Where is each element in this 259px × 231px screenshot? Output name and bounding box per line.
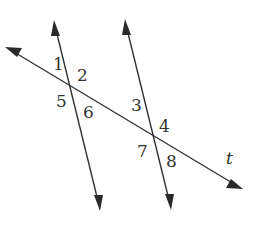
angle-label-4: 4 (159, 118, 170, 135)
arrowhead-up-icon (51, 20, 60, 36)
angle-label-3: 3 (131, 97, 142, 114)
arrowhead-up-icon (122, 19, 131, 35)
angle-label-2: 2 (77, 67, 88, 84)
angle-label-5: 5 (56, 93, 67, 110)
diagram-canvas (0, 0, 259, 231)
transversal-line (14, 52, 234, 184)
angle-label-8: 8 (166, 153, 177, 170)
angle-label-6: 6 (83, 104, 94, 121)
angle-label-7: 7 (137, 143, 148, 160)
angle-label-1: 1 (53, 56, 64, 73)
arrowhead-down-icon (94, 195, 103, 211)
arrowhead-down-icon (165, 194, 174, 210)
transversal-label: t (226, 150, 233, 167)
